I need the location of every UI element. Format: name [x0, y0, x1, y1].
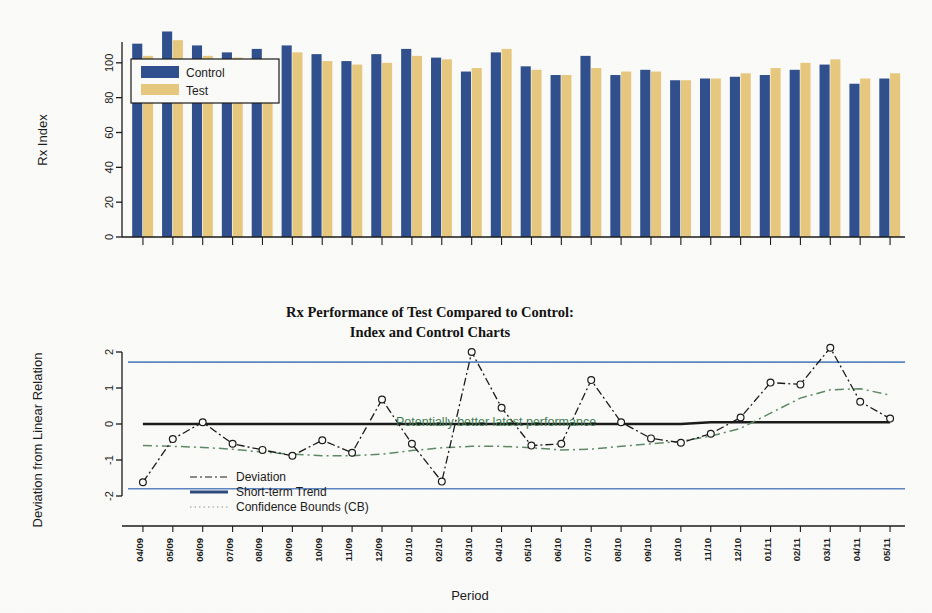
x-tick-label-04-10: 04/10 — [493, 538, 504, 562]
x-tick-label-11-09: 11/09 — [343, 538, 354, 561]
bar-control-01-10 — [401, 49, 411, 237]
control-chart-legend: Deviation Short-term Trend Confidence Bo… — [190, 470, 369, 514]
x-tick-label-04-09: 04/09 — [134, 538, 145, 562]
deviation-point-08-10 — [618, 419, 625, 426]
bar-legend-label-test: Test — [186, 84, 209, 98]
figure-title-line2: Index and Control Charts — [350, 324, 511, 340]
bar-chart-y-axis: 020406080100 — [103, 42, 122, 240]
line-legend-label-short-term-trend: Short-term Trend — [236, 485, 327, 499]
x-tick-label-12-09: 12/09 — [373, 538, 384, 562]
bar-control-11-09 — [341, 61, 351, 237]
x-tick-label-03-11: 03/11 — [821, 537, 832, 561]
x-tick-label-07-10: 07/10 — [582, 538, 593, 562]
line-legend-label-deviation: Deviation — [236, 470, 286, 484]
deviation-point-12-09 — [379, 396, 386, 403]
annotation-potentially-better: Potentially better latest performance — [396, 415, 596, 429]
bar-test-11-09 — [352, 65, 362, 237]
control-chart-y-axis-title: Deviation from Linear Relation — [30, 353, 45, 528]
bar-test-06-10 — [561, 75, 571, 237]
x-tick-label-10-09: 10/09 — [313, 538, 324, 562]
x-tick-label-08-09: 08/09 — [253, 538, 264, 562]
bar-control-11-10 — [700, 79, 710, 237]
bar-chart-panel: 020406080100 Rx Index Control Test — [35, 31, 905, 245]
bar-control-02-10 — [431, 58, 441, 237]
x-tick-label-10-10: 10/10 — [672, 538, 683, 562]
control-chart-x-axis-title: Period — [451, 588, 489, 603]
bar-y-tick-label: 100 — [103, 54, 115, 72]
bar-legend-swatch-control — [141, 66, 179, 78]
x-tick-label-09-10: 09/10 — [642, 538, 653, 562]
bar-test-04-11 — [860, 79, 870, 237]
deviation-point-10-10 — [678, 439, 685, 446]
bar-test-05-10 — [531, 70, 541, 237]
bar-y-tick-label: 0 — [103, 234, 115, 240]
bar-test-05-11 — [890, 73, 900, 237]
x-tick-label-07-09: 07/09 — [224, 538, 235, 562]
bar-test-11-10 — [711, 79, 721, 237]
deviation-point-04-11 — [857, 398, 864, 405]
bar-test-02-11 — [800, 63, 810, 237]
x-tick-label-08-10: 08/10 — [612, 538, 623, 562]
deviation-point-02-11 — [797, 381, 804, 388]
bar-test-03-11 — [830, 59, 840, 237]
bar-legend-swatch-test — [141, 84, 179, 95]
x-tick-label-02-10: 02/10 — [433, 538, 444, 562]
bar-test-04-10 — [502, 49, 512, 237]
deviation-point-01-11 — [767, 379, 774, 386]
x-tick-label-06-10: 06/10 — [552, 538, 563, 562]
deviation-point-09-09 — [289, 452, 296, 459]
x-tick-label-04-11: 04/11 — [851, 537, 862, 561]
bar-control-09-10 — [640, 70, 650, 237]
line-y-tick-label: -1 — [103, 455, 115, 465]
control-chart-panel: -2-1012 Deviation from Linear Relation P… — [30, 344, 905, 603]
x-tick-label-12-10: 12/10 — [732, 538, 743, 562]
bar-control-04-11 — [849, 84, 859, 237]
bar-legend-label-control: Control — [186, 66, 225, 80]
deviation-point-04-10 — [498, 404, 505, 411]
figure-page: 020406080100 Rx Index Control Test Rx Pe… — [0, 0, 932, 613]
x-tick-label-05-10: 05/10 — [522, 538, 533, 562]
bar-control-04-10 — [491, 52, 501, 237]
bar-chart-y-axis-title: Rx Index — [35, 114, 50, 166]
bar-control-09-09 — [282, 45, 292, 237]
control-chart-x-axis: 04/0905/0906/0907/0908/0909/0910/0911/09… — [122, 526, 905, 562]
bar-test-03-10 — [472, 68, 482, 237]
control-chart-y-axis: -2-1012 — [103, 349, 122, 501]
deviation-point-11-10 — [707, 430, 714, 437]
line-legend-label-confidence-bounds: Confidence Bounds (CB) — [236, 500, 369, 514]
bar-test-08-10 — [621, 72, 631, 237]
line-y-tick-label: 0 — [103, 421, 115, 427]
annotation-group: Potentially better latest performance — [396, 415, 596, 429]
bar-test-12-10 — [741, 73, 751, 237]
bar-control-03-11 — [820, 65, 830, 237]
deviation-point-07-10 — [588, 377, 595, 384]
deviation-point-03-11 — [827, 344, 834, 351]
deviation-point-07-09 — [229, 440, 236, 447]
bar-control-08-10 — [610, 75, 620, 237]
bar-test-12-09 — [382, 63, 392, 237]
deviation-point-03-10 — [468, 349, 475, 356]
deviation-point-12-10 — [737, 414, 744, 421]
deviation-point-05-10 — [528, 442, 535, 449]
deviation-point-06-09 — [199, 419, 206, 426]
bar-chart-legend: Control Test — [131, 59, 279, 103]
bar-test-10-10 — [681, 80, 691, 237]
bar-control-06-10 — [551, 75, 561, 237]
x-tick-label-09-09: 09/09 — [283, 538, 294, 562]
bar-test-09-10 — [651, 72, 661, 237]
deviation-point-11-09 — [349, 449, 356, 456]
deviation-point-02-10 — [438, 478, 445, 485]
bar-control-03-10 — [461, 72, 471, 237]
x-tick-label-01-11: 01/11 — [762, 537, 773, 561]
x-tick-label-03-10: 03/10 — [463, 538, 474, 562]
bar-control-10-09 — [311, 54, 321, 237]
bar-test-01-11 — [771, 68, 781, 237]
bar-y-tick-label: 60 — [103, 126, 115, 138]
deviation-point-10-09 — [319, 437, 326, 444]
x-tick-label-05-09: 05/09 — [164, 538, 175, 562]
bar-test-07-10 — [591, 68, 601, 237]
bar-test-09-09 — [292, 52, 302, 237]
bar-y-tick-label: 80 — [103, 92, 115, 104]
bar-control-07-10 — [580, 56, 590, 237]
x-tick-label-06-09: 06/09 — [194, 538, 205, 562]
